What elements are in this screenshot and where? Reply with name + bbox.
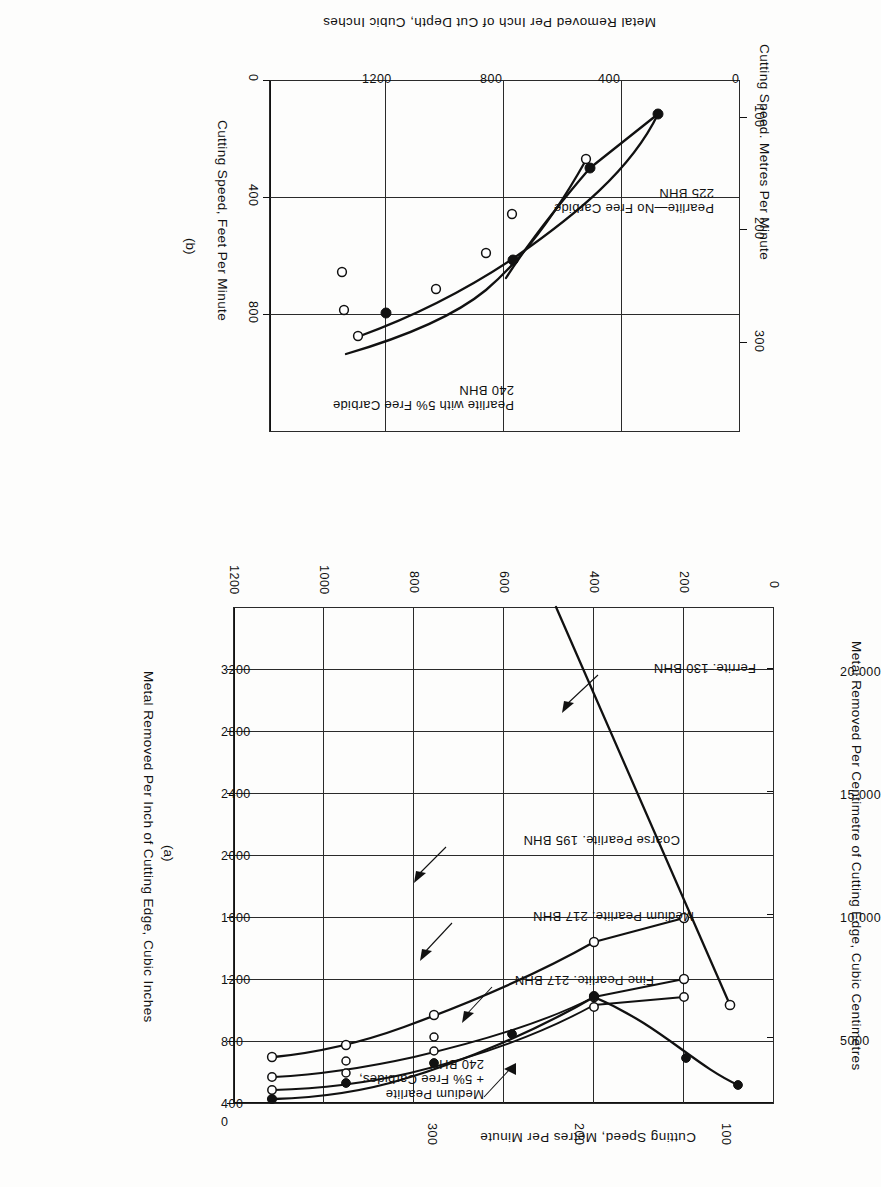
annotation-line-2: 240 BHN (333, 382, 514, 397)
panel-b-annotation-pearlite-5pct-free-carbide: Pearlite with 5% Free Carbide 240 BHN (333, 382, 514, 412)
panel-a-annotation-medium-pearlite-carbides: Medium Pearlite + 5% Free Carbides, 240 … (359, 1056, 484, 1101)
annotation-line-3: 240 BHN (359, 1056, 484, 1071)
panel-a-annotation-coarse-pearlite: Coarse Pearlite. 195 BHN (523, 832, 680, 847)
annotation-line-1: Pearlite with 5% Free Carbide (333, 397, 514, 412)
panel-b: Cutting Speed. Metres Per Minute 100 200… (116, 10, 776, 490)
annotation-line-1: Pearlite—No Free Carbide (554, 200, 714, 215)
annotation-line-1: Medium Pearlite (359, 1086, 484, 1101)
annotation-line-2: 225 BHN (554, 185, 714, 200)
panel-a-annotation-medium-pearlite: Medium Pearlite. 217 BHN (533, 908, 694, 923)
panel-b-curves (116, 10, 776, 490)
panel-b-annotation-pearlite-no-free-carbide: Pearlite—No Free Carbide 225 BHN (554, 185, 714, 215)
panel-a-annotation-fine-pearlite: Fine Pearlite. 217 BHN (514, 972, 654, 987)
panel-a-annotation-ferrite: Ferrite. 130 BHN (654, 660, 756, 675)
panel-a-curves (106, 545, 866, 1165)
annotation-line-2: + 5% Free Carbides, (359, 1071, 484, 1086)
panel-a: Metal Removed Per Centimetre of Cutting … (106, 545, 866, 1165)
